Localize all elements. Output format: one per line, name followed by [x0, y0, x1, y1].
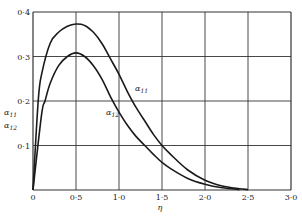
x-tick-label: 2·0: [199, 193, 212, 202]
x-tick-label: 2·5: [242, 193, 255, 202]
x-tick-labels: 00·51·01·52·02·53·0: [30, 193, 297, 202]
y-tick-label: 0·3: [17, 53, 30, 62]
curve-alpha12: [33, 53, 239, 190]
x-tick-label: 1·5: [156, 193, 169, 202]
y-tick-label: 0·4: [17, 8, 30, 17]
x-tick-label: 1·0: [113, 193, 126, 202]
y-tick-labels: 0·10·20·30·4: [17, 8, 30, 151]
curves: [33, 24, 248, 190]
x-tick-label: 0·5: [70, 193, 83, 202]
y-axis-label-alpha11: α11: [4, 108, 17, 118]
x-tick-label: 3·0: [285, 193, 298, 202]
curve-label-alpha11: α11: [135, 84, 148, 94]
y-tick-label: 0·2: [17, 97, 30, 106]
x-axis-label: η: [158, 203, 163, 212]
curve-alpha11: [33, 24, 248, 190]
x-tick-label: 0: [30, 193, 35, 202]
y-axis-label-alpha12: α12: [4, 121, 17, 131]
y-tick-label: 0·1: [17, 142, 30, 151]
chart: 00·51·01·52·02·53·0 0·10·20·30·4 η α11 α…: [0, 0, 302, 218]
